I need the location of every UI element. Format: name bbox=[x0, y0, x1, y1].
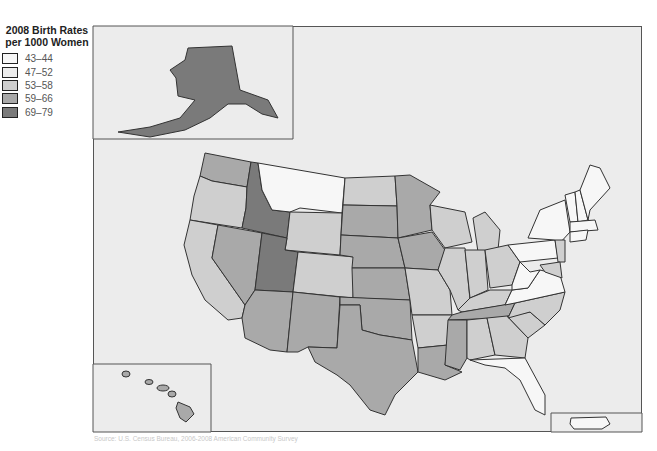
state-SD bbox=[341, 205, 398, 238]
state-NY bbox=[528, 200, 570, 245]
state-MI bbox=[473, 212, 500, 252]
state-CO bbox=[293, 252, 355, 298]
us-map bbox=[0, 0, 657, 451]
hawaii-inset bbox=[93, 364, 211, 432]
state-NM bbox=[287, 292, 340, 352]
state-KS bbox=[352, 268, 410, 300]
state-MT bbox=[258, 163, 345, 213]
source-note: Source: U.S. Census Bureau, 2006-2008 Am… bbox=[94, 435, 298, 442]
state-WY bbox=[285, 212, 342, 255]
state-NJ bbox=[555, 240, 565, 262]
state-PR bbox=[570, 417, 610, 429]
state-MS bbox=[445, 320, 467, 370]
state-CT bbox=[570, 230, 588, 242]
state-AZ bbox=[242, 290, 293, 352]
state-FL bbox=[470, 358, 545, 415]
state-ND bbox=[343, 176, 397, 206]
